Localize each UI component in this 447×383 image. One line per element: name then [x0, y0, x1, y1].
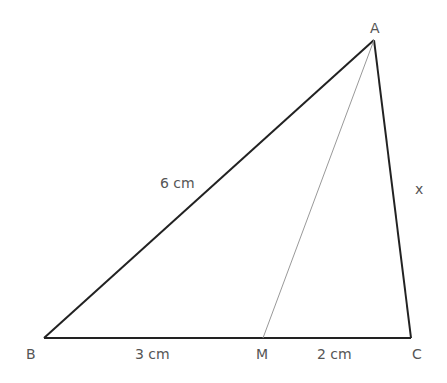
vertex-label-c: C — [412, 346, 422, 362]
edge-label-bm: 3 cm — [135, 346, 170, 362]
triangle-diagram: A B M C 6 cm 3 cm 2 cm x — [0, 0, 447, 383]
vertex-label-b: B — [26, 346, 36, 362]
edge-ab — [44, 40, 374, 338]
vertex-label-m: M — [256, 346, 268, 362]
edge-label-ac: x — [415, 181, 423, 197]
edge-ac — [374, 40, 411, 338]
edge-label-ab: 6 cm — [160, 175, 195, 191]
edge-label-mc: 2 cm — [317, 346, 352, 362]
vertex-label-a: A — [370, 20, 380, 36]
segment-am — [263, 40, 374, 338]
